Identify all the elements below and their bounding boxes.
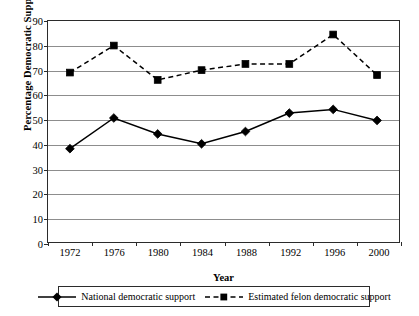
y-tick-label: 80	[13, 40, 43, 51]
x-tick-label: 1988	[236, 247, 257, 258]
x-tick-mark	[48, 242, 49, 246]
square-marker	[330, 31, 337, 38]
y-tick-label: 70	[13, 65, 43, 76]
plot-area: 0102030405060708090 19721976198019841988…	[47, 20, 400, 243]
x-tick-label: 1984	[192, 247, 213, 258]
x-tick-mark	[313, 242, 314, 246]
diamond-marker	[109, 114, 118, 123]
legend-entry-1: National democratic support	[37, 291, 195, 303]
x-tick-label: 1992	[280, 247, 301, 258]
square-marker	[242, 61, 249, 68]
x-tick-mark	[136, 242, 137, 246]
diamond-marker	[53, 292, 62, 301]
square-marker	[110, 42, 117, 49]
x-tick-mark	[401, 242, 402, 246]
legend-swatch	[37, 291, 77, 303]
legend-entry-2: Estimated felon democratic support	[204, 291, 390, 303]
x-tick-label: 1996	[324, 247, 345, 258]
x-tick-mark	[225, 242, 226, 246]
diamond-marker	[241, 127, 250, 136]
series-line-2	[70, 35, 377, 80]
diamond-marker	[197, 139, 206, 148]
x-tick-label: 1972	[60, 247, 81, 258]
legend-label: Estimated felon democratic support	[248, 291, 390, 302]
square-marker	[198, 67, 205, 74]
square-marker	[154, 77, 161, 84]
y-tick-label: 50	[13, 115, 43, 126]
diamond-marker	[285, 109, 294, 118]
diamond-marker	[66, 144, 75, 153]
y-tick-label: 90	[13, 16, 43, 27]
legend-swatch	[204, 291, 244, 303]
series-layer	[48, 21, 399, 242]
legend-label: National democratic support	[81, 291, 195, 302]
y-tick-label: 60	[13, 90, 43, 101]
square-marker	[67, 69, 74, 76]
y-tick-label: 40	[13, 139, 43, 150]
square-marker	[374, 72, 381, 79]
y-tick-label: 20	[13, 189, 43, 200]
x-tick-label: 2000	[368, 247, 389, 258]
square-marker	[221, 293, 228, 300]
diamond-marker	[329, 105, 338, 114]
y-tick-label: 30	[13, 164, 43, 175]
chart-legend: National democratic supportEstimated fel…	[58, 286, 370, 307]
x-tick-mark	[180, 242, 181, 246]
diamond-marker	[153, 130, 162, 139]
diamond-marker	[373, 116, 382, 125]
y-tick-label: 0	[13, 239, 43, 250]
square-marker	[286, 61, 293, 68]
y-tick-label: 10	[13, 214, 43, 225]
x-tick-mark	[269, 242, 270, 246]
x-tick-label: 1980	[148, 247, 169, 258]
chart-figure: Percentage Democratic Support 0102030405…	[0, 0, 419, 316]
x-tick-mark	[92, 242, 93, 246]
x-axis-title: Year	[47, 272, 400, 283]
x-tick-mark	[357, 242, 358, 246]
x-tick-label: 1976	[104, 247, 125, 258]
